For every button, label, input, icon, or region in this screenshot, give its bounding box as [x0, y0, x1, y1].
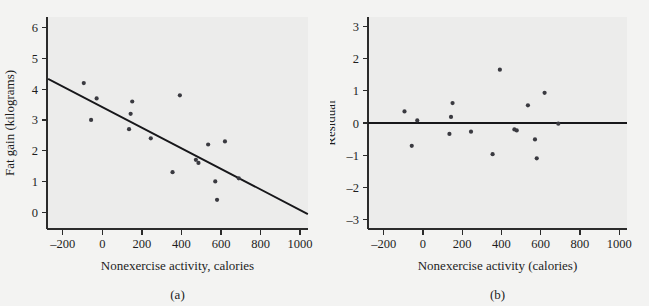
data-point [149, 136, 153, 140]
figure-two-panel-scatter-residual: 0123456–20002004006008001000Nonexercise … [0, 0, 649, 306]
data-point [213, 179, 217, 183]
y-tick-label: 6 [32, 21, 38, 35]
data-point [556, 122, 560, 126]
x-tick-label: 0 [99, 237, 105, 251]
data-point [526, 103, 530, 107]
data-point [206, 142, 210, 146]
data-point [490, 152, 494, 156]
panel-a-plot: 0123456–20002004006008001000Nonexercise … [0, 0, 330, 306]
y-tick-label: 2 [32, 144, 38, 158]
x-tick-label: 1000 [288, 237, 313, 251]
x-tick-label: 0 [420, 237, 426, 251]
x-tick-label: –200 [370, 237, 396, 251]
y-tick-label: 0 [32, 206, 38, 220]
data-point [215, 198, 219, 202]
data-point [450, 101, 454, 105]
data-point [223, 139, 227, 143]
x-tick-label: 200 [453, 237, 472, 251]
x-tick-label: 600 [531, 237, 550, 251]
y-tick-label: 1 [32, 175, 38, 189]
x-tick-label: 400 [172, 237, 191, 251]
panel-subcaption: (b) [490, 287, 505, 302]
y-tick-label: 4 [32, 83, 39, 97]
plot-area-background [47, 17, 308, 229]
data-point [130, 99, 134, 103]
x-axis-title: Nonexercise activity, calories [101, 258, 254, 273]
data-point [178, 93, 182, 97]
panel-subcaption: (a) [170, 287, 184, 302]
y-tick-label: 1 [353, 84, 359, 98]
data-point [402, 109, 406, 113]
data-point [515, 128, 519, 132]
data-point [89, 118, 93, 122]
x-axis-title: Nonexercise activity (calories) [418, 258, 578, 273]
data-point [170, 170, 174, 174]
x-tick-label: 200 [133, 237, 152, 251]
y-tick-label: 2 [353, 52, 359, 66]
y-tick-label: 3 [32, 113, 38, 127]
data-point [127, 127, 131, 131]
data-point [415, 118, 419, 122]
y-axis-title: Residual [330, 100, 338, 146]
data-point [237, 176, 241, 180]
data-point [410, 144, 414, 148]
panel-a: 0123456–20002004006008001000Nonexercise … [0, 0, 330, 306]
y-tick-label: –1 [346, 149, 360, 163]
y-tick-label: 0 [353, 117, 359, 131]
y-tick-label: 3 [353, 20, 359, 34]
data-point [469, 130, 473, 134]
data-point [95, 96, 99, 100]
y-tick-label: 5 [32, 52, 38, 66]
data-point [447, 132, 451, 136]
x-tick-label: 1000 [607, 237, 632, 251]
data-point [82, 81, 86, 85]
y-tick-label: –2 [346, 181, 360, 195]
data-point [196, 161, 200, 165]
y-tick-label: –3 [346, 213, 360, 227]
panel-b-plot: –3–2–10123–20002004006008001000Nonexerci… [330, 0, 649, 306]
data-point [542, 91, 546, 95]
data-point [535, 156, 539, 160]
x-tick-label: 400 [492, 237, 511, 251]
data-point [498, 68, 502, 72]
panel-b: –3–2–10123–20002004006008001000Nonexerci… [330, 0, 649, 306]
data-point [129, 112, 133, 116]
data-point [449, 115, 453, 119]
y-axis-title: Fat gain (kilograms) [2, 70, 17, 176]
data-point [533, 137, 537, 141]
x-tick-label: 600 [212, 237, 231, 251]
x-tick-label: 800 [251, 237, 270, 251]
x-tick-label: –200 [49, 237, 75, 251]
x-tick-label: 800 [571, 237, 590, 251]
